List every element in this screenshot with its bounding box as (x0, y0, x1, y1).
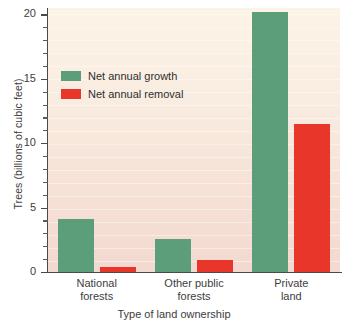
y-tick-major-20 (41, 14, 48, 15)
y-tick-minor-13 (43, 105, 48, 106)
y-tick-minor-9 (43, 156, 48, 157)
y-tick-label-10: 10 (2, 136, 36, 148)
y-tick-minor-18 (43, 40, 48, 41)
x-axis-title: Type of land ownership (0, 308, 348, 320)
y-tick-label-0: 0 (2, 265, 36, 277)
y-tick-minor-6 (43, 195, 48, 196)
y-tick-minor-7 (43, 182, 48, 183)
bar-growth-2 (252, 12, 288, 272)
x-axis-line (42, 272, 342, 273)
y-tick-minor-1 (43, 259, 48, 260)
bar-growth-1 (155, 239, 191, 272)
y-tick-major-10 (41, 143, 48, 144)
y-tick-minor-11 (43, 130, 48, 131)
y-tick-label-20: 20 (2, 7, 36, 19)
y-tick-minor-17 (43, 53, 48, 54)
y-tick-major-0 (41, 272, 48, 273)
bar-growth-0 (58, 219, 94, 272)
y-tick-minor-16 (43, 66, 48, 67)
y-tick-minor-19 (43, 27, 48, 28)
bar-chart: Trees (billions of cubic feet) 05101520 … (0, 0, 348, 331)
y-tick-minor-2 (43, 246, 48, 247)
y-tick-major-15 (41, 79, 48, 80)
y-tick-label-5: 5 (2, 201, 36, 213)
y-tick-minor-12 (43, 117, 48, 118)
plot-area (48, 8, 340, 272)
legend-item-net-annual-removal: Net annual removal (61, 86, 183, 101)
y-tick-minor-3 (43, 233, 48, 234)
y-tick-major-5 (41, 208, 48, 209)
y-tick-minor-4 (43, 220, 48, 221)
legend: Net annual growth Net annual removal (61, 68, 183, 104)
y-tick-label-15: 15 (2, 72, 36, 84)
bar-removal-1 (197, 260, 233, 272)
legend-swatch-red-icon (61, 89, 81, 99)
x-tick-label-2: Privateland (231, 277, 348, 302)
y-tick-minor-8 (43, 169, 48, 170)
legend-label-net-annual-growth: Net annual growth (88, 70, 177, 82)
legend-label-net-annual-removal: Net annual removal (88, 88, 183, 100)
legend-swatch-green-icon (61, 71, 81, 81)
legend-item-net-annual-growth: Net annual growth (61, 68, 183, 83)
bar-removal-2 (294, 124, 330, 272)
y-tick-minor-14 (43, 92, 48, 93)
